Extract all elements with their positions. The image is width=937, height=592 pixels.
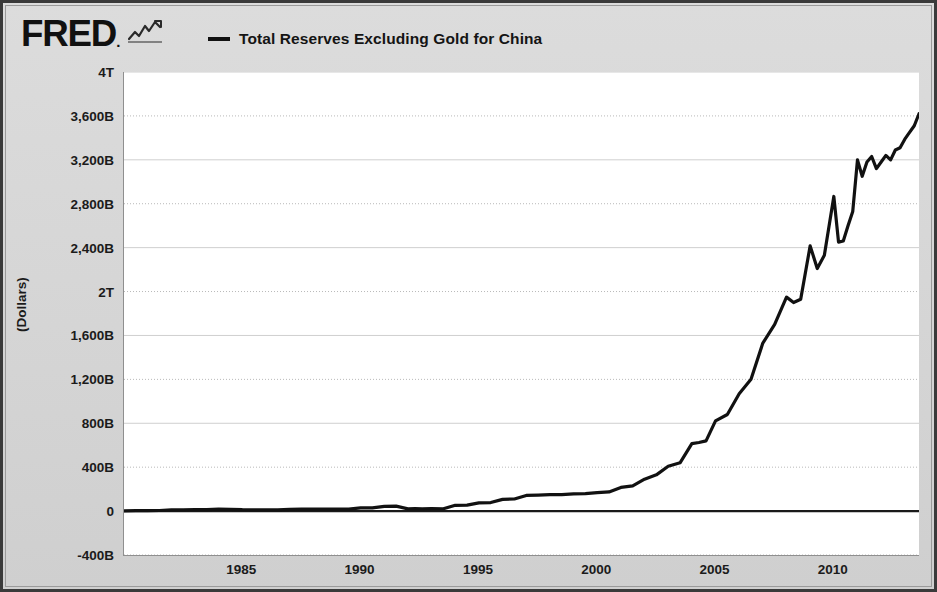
x-axis: 198519901995200020052010 [123, 558, 918, 584]
y-axis-title: (Dollars) [14, 277, 29, 332]
y-tick-label: 3,200B [70, 152, 114, 167]
x-tick-label: 1990 [345, 562, 375, 577]
legend-line-swatch [208, 37, 230, 41]
fred-chart-screenshot: FRED . Total Reserves Excluding Gold for… [0, 0, 937, 592]
y-tick-label: 1,200B [70, 372, 114, 387]
x-tick-label: 2010 [818, 562, 848, 577]
x-axis-line [123, 555, 919, 556]
y-tick-label: -400B [77, 548, 114, 563]
plot-svg [124, 72, 919, 555]
plot-background [124, 72, 919, 555]
y-tick-label: 3,600B [70, 108, 114, 123]
fred-logo: FRED . [22, 18, 164, 50]
y-tick-label: 400B [82, 460, 114, 475]
fred-logo-trademark-dot: . [116, 33, 120, 50]
y-tick-label: 4T [98, 65, 114, 80]
y-tick-label: 2,400B [70, 240, 114, 255]
x-tick-label: 1995 [463, 562, 493, 577]
x-tick-label: 1985 [226, 562, 256, 577]
plot-area [123, 72, 919, 555]
y-tick-label: 2T [98, 284, 114, 299]
y-tick-label: 1,600B [70, 328, 114, 343]
y-tick-label: 800B [82, 416, 114, 431]
y-tick-label: 0 [106, 504, 114, 519]
x-tick-label: 2000 [581, 562, 611, 577]
fred-wordmark: FRED [21, 18, 116, 50]
y-tick-label: 2,800B [70, 196, 114, 211]
chart-header: FRED . Total Reserves Excluding Gold for… [8, 8, 929, 60]
x-tick-label: 2005 [699, 562, 729, 577]
legend-series-label: Total Reserves Excluding Gold for China [239, 30, 542, 48]
y-axis: (Dollars) 4T3,600B3,200B2,800B2,400B2T1,… [0, 72, 118, 555]
chart-legend: Total Reserves Excluding Gold for China [208, 30, 542, 48]
squiggle-chart-icon [128, 19, 164, 47]
